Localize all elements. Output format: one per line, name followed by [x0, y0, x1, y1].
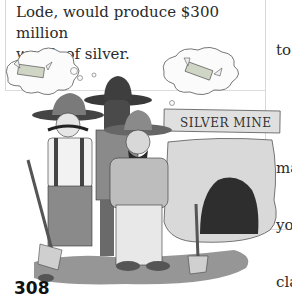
page-number: 308 [14, 278, 50, 298]
thought-cloud-left-icon [6, 48, 96, 95]
thought-cloud-right-icon [163, 47, 238, 115]
mine-sign-label: SILVER MINE [180, 116, 272, 130]
silver-mine-icon: SILVER MINE [164, 109, 280, 242]
prospectors-illustration: SILVER MINE [0, 45, 292, 285]
prospector-left-icon [28, 93, 104, 282]
body-text-line: Lode, would produce $300 million [16, 2, 264, 44]
